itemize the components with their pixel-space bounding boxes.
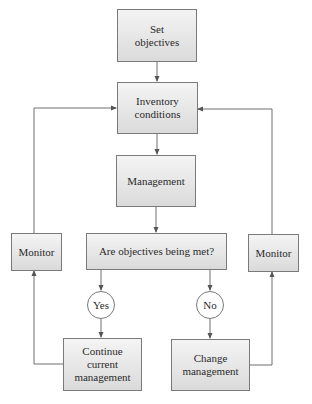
decision-yes: Yes [87, 291, 115, 319]
node-continue-current-management: Continue current management [63, 338, 142, 391]
arrow-change-to-monitor-right [249, 272, 272, 365]
node-label: Monitor [255, 247, 291, 260]
node-set-objectives: Set objectives [117, 9, 197, 62]
decision-no: No [196, 291, 224, 319]
arrow-monitor-left-to-inventory [34, 108, 116, 233]
flowchart-diagram: Set objectives Inventory conditions Mana… [0, 0, 312, 404]
decision-label: No [203, 299, 216, 311]
node-monitor-right: Monitor [248, 234, 299, 272]
decision-label: Yes [93, 299, 109, 311]
node-label: Monitor [18, 246, 54, 259]
node-label: Management [127, 175, 184, 188]
node-label: Continue current management [74, 345, 130, 384]
node-label: Change management [182, 352, 238, 378]
arrow-monitor-right-to-inventory [198, 109, 272, 234]
node-label: Inventory conditions [135, 95, 181, 121]
node-monitor-left: Monitor [11, 233, 62, 271]
node-label: Are objectives being met? [99, 245, 214, 258]
arrow-continue-to-monitor-left [34, 271, 63, 364]
node-inventory-conditions: Inventory conditions [117, 82, 198, 134]
node-management: Management [116, 155, 196, 207]
node-change-management: Change management [171, 339, 250, 391]
node-label: Set objectives [135, 23, 180, 49]
node-objectives-question: Are objectives being met? [86, 233, 227, 270]
